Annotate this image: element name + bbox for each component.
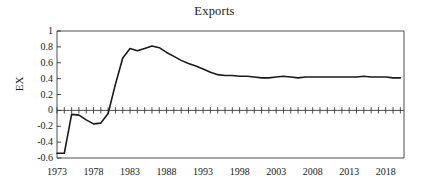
exports-chart: Exports EX 10.80.60.40.20-0.2-0.4-0.6 19… (0, 0, 429, 195)
data-series-line (57, 46, 400, 153)
plot-area (0, 0, 429, 195)
axes-frame (57, 31, 404, 158)
y-tick-marks (57, 31, 61, 158)
